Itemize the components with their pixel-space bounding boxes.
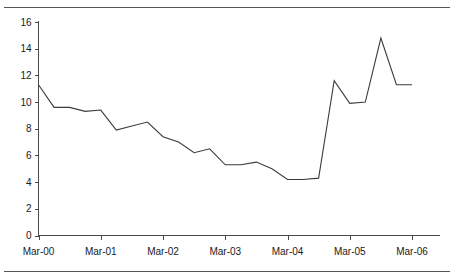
x-tick-label: Mar-00 (23, 246, 55, 257)
y-tick-label: 2 (26, 203, 32, 214)
x-tick-label: Mar-05 (334, 246, 366, 257)
x-tick-label: Mar-04 (272, 246, 304, 257)
y-tick-label: 6 (26, 150, 32, 161)
x-tick-label: Mar-01 (85, 246, 117, 257)
x-tick-label: Mar-06 (396, 246, 428, 257)
y-tick-label: 14 (20, 43, 32, 54)
y-tick-label: 16 (20, 17, 32, 28)
y-tick-label: 8 (26, 123, 32, 134)
chart-background (0, 0, 454, 280)
chart-figure: 0246810121416 Mar-00Mar-01Mar-02Mar-03Ma… (0, 0, 454, 280)
y-tick-label: 10 (20, 97, 32, 108)
line-chart: 0246810121416 Mar-00Mar-01Mar-02Mar-03Ma… (0, 0, 454, 280)
x-tick-label: Mar-02 (147, 246, 179, 257)
y-tick-label: 4 (26, 177, 32, 188)
y-tick-label: 12 (20, 70, 32, 81)
y-tick-label: 0 (26, 230, 32, 241)
x-tick-label: Mar-03 (209, 246, 241, 257)
